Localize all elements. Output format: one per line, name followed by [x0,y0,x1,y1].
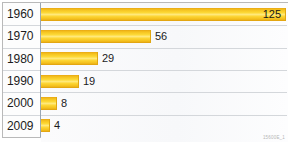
category-label: 2000 [7,97,33,109]
watermark-id: 15600E_1 [263,135,285,140]
bar-area: 8 [41,92,287,114]
bar-area: 29 [41,48,287,70]
bar-value-label: 8 [57,98,67,109]
category-label-cell: 1970 [3,25,41,47]
bar-value-label: 4 [50,120,60,131]
chart-row: 1960 125 [3,3,287,25]
category-label-cell: 1960 [3,3,41,25]
chart-row: 1990 19 [3,70,287,92]
bar[interactable] [41,52,98,65]
category-label: 1990 [7,75,33,87]
bar[interactable] [41,119,50,132]
category-label: 1980 [7,53,33,65]
bar-value-label: 29 [98,53,114,64]
category-label: 2009 [7,120,33,132]
chart-row: 1970 56 [3,25,287,47]
chart-row: 2000 8 [3,92,287,114]
category-label: 1970 [7,30,33,42]
bar-area: 19 [41,70,287,92]
category-label-cell: 2000 [3,92,41,114]
bar[interactable] [41,75,79,88]
bar-value-label: 125 [263,9,281,20]
category-label-cell: 2009 [3,115,41,137]
bar-area: 4 [41,115,287,137]
bar-value-label: 56 [151,31,167,42]
chart-rows: 1960 125 1970 56 1980 29 [3,3,287,137]
bar[interactable] [41,8,286,21]
bar-chart: 1960 125 1970 56 1980 29 [0,0,291,145]
bar-value-label: 19 [79,76,95,87]
chart-row: 2009 4 [3,115,287,137]
category-label-cell: 1980 [3,48,41,70]
bar[interactable] [41,30,151,43]
bar-area: 125 [41,3,287,25]
value-axis-line [40,3,41,137]
category-label-cell: 1990 [3,70,41,92]
bar-area: 56 [41,25,287,47]
bar[interactable] [41,97,57,110]
category-label: 1960 [7,8,33,20]
chart-row: 1980 29 [3,48,287,70]
